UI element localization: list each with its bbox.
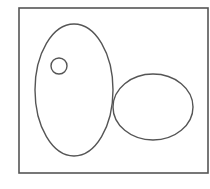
right-ellipse-region <box>113 74 193 140</box>
large-ellipse-region <box>35 24 113 156</box>
small-circle-region <box>51 58 67 74</box>
set-diagram <box>0 0 210 189</box>
diagram-canvas <box>0 0 210 189</box>
